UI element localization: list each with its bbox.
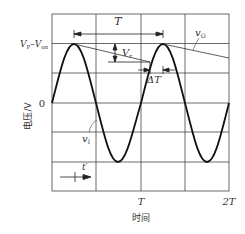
output-signal-label: vO xyxy=(195,27,206,39)
period-label: T xyxy=(114,15,123,28)
delta-t-label: ΔT xyxy=(146,74,162,85)
x-tick-t: T xyxy=(138,196,146,207)
time-marker-label: t′ xyxy=(82,162,88,172)
delta-t-dimension xyxy=(138,62,175,74)
rectifier-waveform-diagram: T Vr ΔT vO vI t′ VP–Von 0 电压/V xyxy=(0,0,245,234)
output-discharge-lines xyxy=(74,44,229,62)
ripple-label: Vr xyxy=(122,47,132,59)
period-dimension xyxy=(74,30,163,38)
y-tick-zero: 0 xyxy=(39,98,45,109)
input-signal-label: vI xyxy=(82,133,91,145)
x-axis-label: 时间 xyxy=(132,212,150,223)
time-marker xyxy=(60,172,91,182)
y-tick-vp-von: VP–Von xyxy=(20,39,49,50)
y-axis-label: 电压/V xyxy=(22,102,33,130)
x-tick-2t: 2T xyxy=(221,196,236,207)
output-label-leader xyxy=(193,38,199,50)
